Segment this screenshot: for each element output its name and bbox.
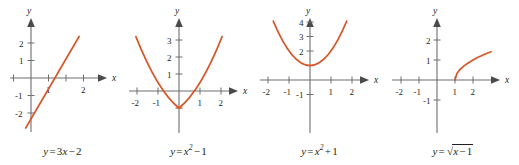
caption-constant: 1 [332,145,338,157]
x-axis-label: x [373,75,379,85]
y-tick-label-1: 1 [426,56,431,66]
x-axis-arrow [98,74,107,82]
x-axis-label: x [111,73,117,83]
y-tick-label-1: 1 [167,70,172,80]
y-tick-label-3: 3 [167,36,172,46]
y-tick-label-neg1: -1 [296,90,304,100]
x-axis-arrow [360,76,369,84]
y-axis-arrow [175,18,183,27]
caption-parabola-down: y=x2−1 [125,145,252,157]
plot-linear: x y 1 2 1 2 -1 -2 [0,0,125,140]
x-tick-label-1: 1 [198,98,203,108]
graph-panel-parabola-up: x y -2 -1 1 2 -1 2 3 4 y=x2+1 [252,0,387,165]
x-axis-label: x [242,86,248,96]
y-axis-arrow [433,18,441,27]
caption-constant: 1 [201,145,207,157]
plot-parabola-up: x y -2 -1 1 2 -1 2 3 4 [252,0,387,140]
caption-variable: x [63,145,68,157]
caption-equals: = [438,145,446,157]
y-tick-label-2: 2 [19,39,24,49]
y-tick-label-2: 2 [299,47,304,57]
x-tick-label-neg1: -1 [414,87,422,97]
caption-operator: − [68,145,76,157]
x-tick-label-2: 2 [81,85,86,95]
y-tick-label-neg1: -1 [423,96,431,106]
y-axis-label: y [432,6,438,16]
y-tick-label-2: 2 [167,53,172,63]
y-tick-label-4: 4 [299,18,304,28]
caption-operator: − [193,145,201,157]
plot-sqrt: x y -2 -1 1 2 -1 1 2 [387,0,519,140]
graph-panel-linear: x y 1 2 1 2 -1 -2 y=3x−2 [0,0,125,165]
caption-equals: = [306,145,314,157]
y-tick-label-2: 2 [426,36,431,46]
caption-lhs: y [433,145,438,157]
x-axis-arrow [491,76,500,84]
graph-panel-sqrt: x y -2 -1 1 2 -1 1 2 y=√x−1 [387,0,519,165]
caption-operator: + [324,145,332,157]
y-tick-label-neg1: -1 [15,91,23,101]
y-tick-label-1: 1 [19,56,24,66]
x-tick-label-2: 2 [219,98,224,108]
x-axis-label: x [504,75,510,85]
curve-sqrt [455,52,491,80]
x-tick-label-1: 1 [329,87,334,97]
caption-parabola-up: y=x2+1 [252,145,387,157]
caption-equals: = [48,145,56,157]
caption-constant: 1 [467,145,473,157]
y-tick-label-3: 3 [299,32,304,42]
caption-operator: − [458,145,466,157]
x-axis-arrow [229,87,238,95]
caption-constant: 2 [76,145,82,157]
x-tick-label-neg1: -1 [284,87,292,97]
caption-sqrt: y=√x−1 [387,144,519,157]
radical-expression: √x−1 [446,144,473,157]
plot-parabola-down: x y -2 -1 1 2 1 2 3 [125,0,252,140]
y-axis-label: y [305,6,311,16]
y-axis-label: y [26,6,32,16]
x-tick-label-1: 1 [453,87,458,97]
x-tick-label-neg2: -2 [132,98,140,108]
y-axis-label: y [174,6,180,16]
x-tick-label-neg2: -2 [396,87,404,97]
graph-panel-parabola-down: x y -2 -1 1 2 1 2 3 y=x2−1 [125,0,252,165]
x-tick-label-neg2: -2 [263,87,271,97]
curve-linear [26,37,79,129]
four-graph-figure: x y 1 2 1 2 -1 -2 y=3x−2 [0,0,519,165]
x-tick-label-neg1: -1 [153,98,161,108]
x-tick-label-2: 2 [350,87,355,97]
y-axis-arrow [27,18,35,27]
caption-equals: = [175,145,183,157]
caption-linear: y=3x−2 [0,145,125,157]
x-tick-label-2: 2 [471,87,476,97]
y-tick-label-neg2: -2 [15,109,23,119]
radicand: x−1 [452,144,473,157]
